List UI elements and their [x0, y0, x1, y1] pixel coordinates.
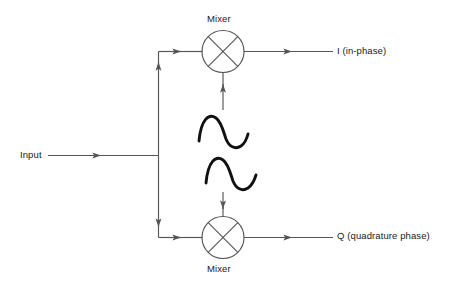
input-label: Input: [20, 150, 42, 160]
output-q-label: Q (quadrature phase): [337, 231, 430, 241]
output-i-label: I (in-phase): [337, 46, 386, 56]
lo-wave-lower: [206, 158, 256, 189]
mixer-bottom-label: Mixer: [207, 264, 231, 274]
mixer-top-label: Mixer: [207, 14, 231, 24]
lo-wave-upper: [199, 116, 248, 147]
iq-demodulator-diagram: [0, 0, 457, 288]
diagram-canvas: Mixer Mixer Input I (in-phase) Q (quadra…: [0, 0, 457, 288]
